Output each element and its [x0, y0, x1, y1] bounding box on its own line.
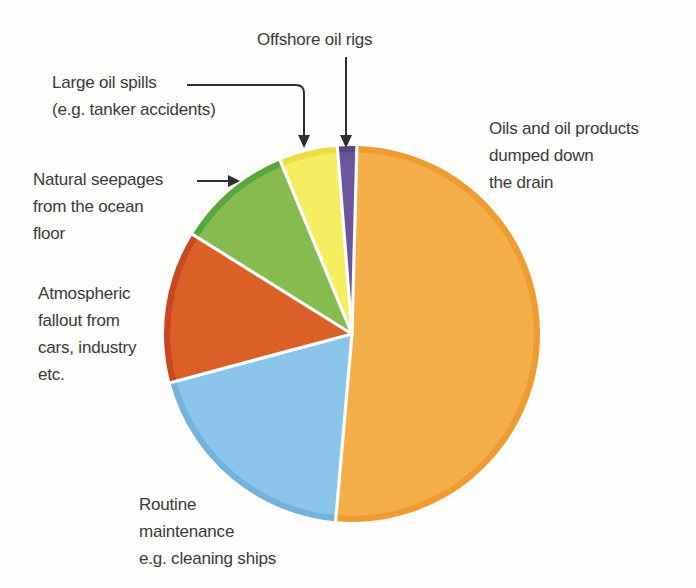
large-oil-spills-arrowhead-icon — [298, 135, 310, 148]
pie-layer — [164, 144, 540, 523]
pie-slice-0 — [336, 152, 534, 516]
label-large-oil-spills: Large oil spills (e.g. tanker accidents) — [52, 69, 216, 123]
oil-pollution-pie-figure: Offshore oil rigs Large oil spills (e.g.… — [0, 0, 696, 588]
label-dumped-down-drain: Oils and oil products dumped down the dr… — [489, 115, 639, 196]
label-routine-maintenance: Routine maintenance e.g. cleaning ships — [139, 491, 276, 572]
label-atmospheric-fallout: Atmospheric fallout from cars, industry … — [38, 280, 136, 388]
label-natural-seepages: Natural seepages from the ocean floor — [33, 166, 163, 247]
label-offshore-oil-rigs: Offshore oil rigs — [257, 26, 372, 53]
